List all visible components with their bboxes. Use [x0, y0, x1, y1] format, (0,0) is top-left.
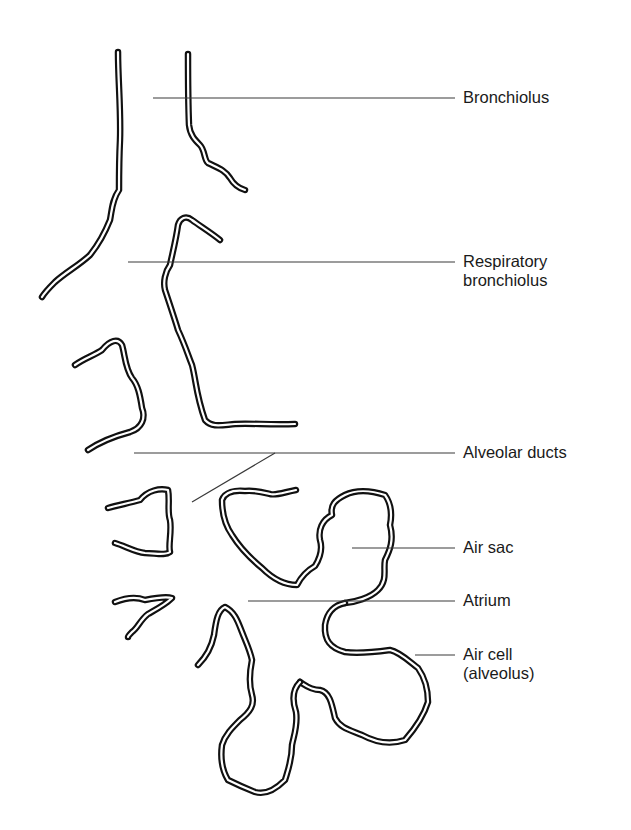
- alveolar-duct-walls: [108, 489, 172, 637]
- label-air-sac: Air sac: [463, 538, 513, 557]
- label-air-cell: Air cell (alveolus): [463, 645, 535, 683]
- bronchiolus-walls: [42, 52, 245, 297]
- label-bronchiolus: Bronchiolus: [463, 88, 549, 107]
- label-text-line-1: Air cell: [463, 645, 535, 664]
- label-text-line-2: bronchiolus: [463, 271, 547, 290]
- respiratory-bronchiolus-walls: [75, 218, 295, 450]
- label-text-line-1: Respiratory: [463, 252, 547, 271]
- label-text: Bronchiolus: [463, 88, 549, 106]
- label-text: Air sac: [463, 538, 513, 556]
- diagram-canvas: Bronchiolus Respiratory bronchiolus Alve…: [0, 0, 631, 830]
- label-respiratory-bronchiolus: Respiratory bronchiolus: [463, 252, 547, 290]
- label-text-line-2: (alveolus): [463, 664, 535, 683]
- label-alveolar-ducts: Alveolar ducts: [463, 443, 567, 462]
- leader-lines: [128, 98, 455, 655]
- air-sac-walls: [198, 490, 428, 793]
- airway-drawing: [0, 0, 631, 830]
- label-text: Alveolar ducts: [463, 443, 567, 461]
- label-text: Atrium: [463, 591, 511, 609]
- label-atrium: Atrium: [463, 591, 511, 610]
